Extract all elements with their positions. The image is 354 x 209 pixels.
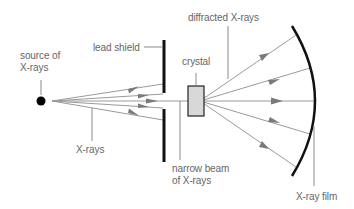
label-narrow-beam: narrow beam of X-rays <box>172 163 229 187</box>
label-source-line2: X-rays <box>20 62 60 74</box>
label-crystal: crystal <box>182 56 210 68</box>
label-narrow-line1: narrow beam <box>172 163 229 175</box>
label-xray-film: X-ray film <box>296 191 337 203</box>
crystal <box>188 86 204 116</box>
label-source-line1: source of <box>20 50 60 62</box>
incident-rays <box>52 84 190 120</box>
diffracted-rays <box>200 35 315 167</box>
label-narrow-line2: of X-rays <box>172 175 229 187</box>
label-xrays: X-rays <box>76 144 104 156</box>
label-source: source of X-rays <box>20 50 60 74</box>
xray-source-dot <box>37 97 46 106</box>
label-diffracted-xrays: diffracted X-rays <box>188 12 259 24</box>
label-lead-shield: lead shield <box>93 42 140 54</box>
